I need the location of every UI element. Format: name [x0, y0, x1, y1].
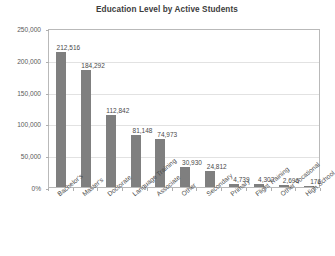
y-tick-mark	[46, 157, 49, 158]
x-tick-mark	[196, 188, 197, 191]
y-tick-mark	[46, 94, 49, 95]
bar-value-label: 212,516	[57, 44, 81, 51]
x-tick-mark	[147, 188, 148, 191]
y-tick-label: 0%	[31, 185, 41, 192]
bar[interactable]	[106, 115, 116, 187]
x-tick-mark	[73, 188, 74, 191]
bar-value-label: 112,842	[106, 107, 129, 114]
x-axis-labels: Bachelor'sMaster'sDoctorateLanguage Trai…	[48, 192, 320, 256]
x-tick-mark	[271, 188, 272, 191]
y-tick-mark	[46, 125, 49, 126]
x-tick-mark	[48, 188, 49, 191]
bar-value-label: 184,292	[81, 62, 105, 69]
bar-value-label: 24,812	[207, 163, 227, 170]
x-tick-mark	[246, 188, 247, 191]
bar-value-label: 81,148	[133, 127, 153, 134]
chart-title: Education Level by Active Students	[0, 5, 334, 14]
y-tick-mark	[46, 62, 49, 63]
x-tick-mark	[97, 188, 98, 191]
y-tick-mark	[46, 30, 49, 31]
y-tick-label: 150,000	[17, 89, 41, 96]
x-tick-mark	[295, 188, 296, 191]
y-tick-label: 50,000	[21, 153, 41, 160]
x-tick-mark	[172, 188, 173, 191]
x-tick-mark	[320, 188, 321, 191]
bar-value-label: 74,973	[157, 131, 177, 138]
plot-area: 212,516184,292112,84281,14874,97330,9302…	[48, 29, 320, 188]
x-tick-mark	[221, 188, 222, 191]
bar-value-label: 30,930	[182, 159, 202, 166]
y-tick-label: 100,000	[17, 121, 41, 128]
bar[interactable]	[56, 52, 66, 187]
x-tick-mark	[122, 188, 123, 191]
y-tick-label: 250,000	[17, 26, 41, 33]
bar[interactable]	[81, 70, 91, 187]
y-axis: 0%50,000100,000150,000200,000250,000	[0, 29, 45, 188]
y-tick-label: 200,000	[17, 57, 41, 64]
